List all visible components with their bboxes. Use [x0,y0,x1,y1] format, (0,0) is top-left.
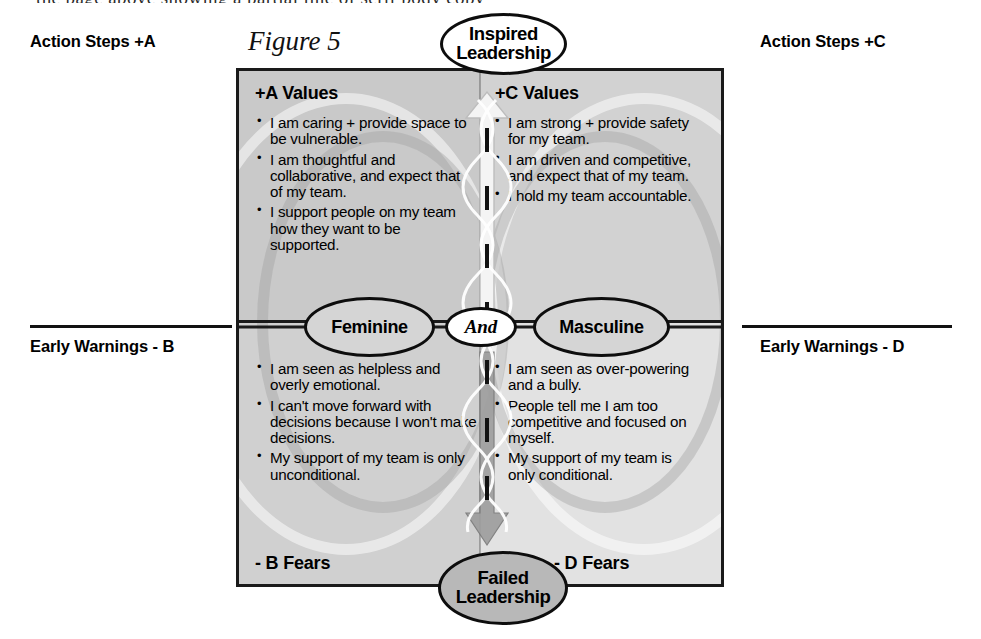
list-item: I am thoughtful and collaborative, and e… [257,152,469,201]
oval-and: And [445,307,517,347]
page-top-partial-text: the page above showing a partial line of… [36,0,656,3]
bullet-list-minus-d-fears: I am seen as over-powering and a bully. … [495,361,700,487]
list-item: I am strong + provide safety for my team… [495,115,700,148]
list-item: I hold my team accountable. [495,188,700,204]
divider-rule-left [30,325,232,328]
list-item: I support people on my team how they wan… [257,204,469,253]
list-item: My support of my team is only unconditio… [257,450,479,483]
figure-caption: Figure 5 [248,26,341,57]
list-item: I am seen as over-powering and a bully. [495,361,700,394]
label-action-steps-plus-c: Action Steps +C [760,32,885,51]
header-plus-c-values: +C Values [495,83,579,104]
oval-masculine: Masculine [533,297,670,357]
list-item: I am seen as helpless and overly emotion… [257,361,479,394]
oval-feminine: Feminine [304,297,435,357]
oval-failed-leadership: Failed Leadership [438,551,568,625]
list-item: My support of my team is only conditiona… [495,450,700,483]
list-item: I am driven and competitive, and expect … [495,152,700,185]
label-early-warnings-minus-d: Early Warnings - D [760,337,904,356]
oval-inspired-leadership: Inspired Leadership [440,13,567,75]
footer-minus-b-fears: - B Fears [255,553,330,574]
list-item: People tell me I am too competitive and … [495,398,700,447]
divider-rule-right [742,325,952,328]
label-early-warnings-minus-b: Early Warnings - B [30,337,174,356]
label-action-steps-plus-a: Action Steps +A [30,32,155,51]
header-plus-a-values: +A Values [255,83,338,104]
list-item: I am caring + provide space to be vulner… [257,115,469,148]
bullet-list-plus-a-values: I am caring + provide space to be vulner… [257,115,469,257]
footer-minus-d-fears: - D Fears [554,553,629,574]
bullet-list-minus-b-fears: I am seen as helpless and overly emotion… [257,361,479,487]
bullet-list-plus-c-values: I am strong + provide safety for my team… [495,115,700,208]
list-item: I can't move forward with decisions beca… [257,398,479,447]
